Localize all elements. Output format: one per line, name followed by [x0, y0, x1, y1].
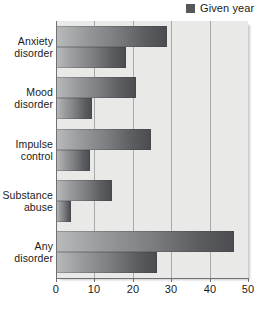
category-label-line: disorder — [1, 252, 53, 264]
x-tick-label: 40 — [204, 283, 217, 295]
bar — [56, 77, 136, 98]
x-tick-mark — [133, 279, 134, 282]
x-axis-line — [56, 278, 249, 279]
category-axis-labels: AnxietydisorderMooddisorderImpulsecontro… — [0, 21, 53, 278]
category-label-line: Substance — [1, 189, 53, 201]
bar — [56, 150, 90, 171]
bar — [56, 180, 112, 201]
chart-legend: Given year — [186, 1, 254, 15]
category-label: Anydisorder — [1, 240, 53, 264]
category-label: Anxietydisorder — [1, 35, 53, 59]
category-label: Impulsecontrol — [1, 138, 53, 162]
category-label-line: disorder — [1, 98, 53, 110]
category-label: Mooddisorder — [1, 86, 53, 110]
bar — [56, 252, 157, 273]
bar — [56, 129, 151, 150]
plot-area — [56, 21, 248, 278]
category-label-line: abuse — [1, 201, 53, 213]
square-swatch-icon — [186, 4, 195, 13]
x-tick-mark — [210, 279, 211, 282]
bar — [56, 231, 234, 252]
x-tick-label: 20 — [127, 283, 140, 295]
category-label-line: Impulse — [1, 138, 53, 150]
legend-entry-label: Given year — [200, 3, 254, 14]
bar-chart: Given year AnxietydisorderMooddisorderIm… — [0, 0, 266, 309]
category-label: Substanceabuse — [1, 189, 53, 213]
bar — [56, 98, 92, 119]
bar — [56, 201, 71, 222]
category-label-line: Any — [1, 240, 53, 252]
x-tick-label: 50 — [242, 283, 255, 295]
x-tick-label: 10 — [88, 283, 101, 295]
category-label-line: Mood — [1, 86, 53, 98]
category-label-line: disorder — [1, 47, 53, 59]
x-tick-mark — [248, 279, 249, 282]
category-label-line: control — [1, 150, 53, 162]
category-label-line: Anxiety — [1, 35, 53, 47]
bar — [56, 47, 126, 68]
bar — [56, 26, 167, 47]
y-axis-line — [56, 21, 57, 279]
x-tick-mark — [94, 279, 95, 282]
x-tick-label: 30 — [165, 283, 178, 295]
x-tick-mark — [171, 279, 172, 282]
x-tick-label: 0 — [53, 283, 59, 295]
x-tick-mark — [56, 279, 57, 282]
